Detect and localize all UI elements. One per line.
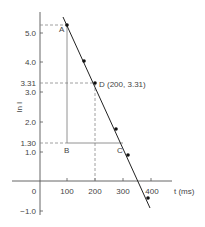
data-point: [126, 153, 130, 157]
data-point: [82, 59, 86, 63]
y-label-m1: −1.0: [20, 207, 36, 216]
y-label-4: 4.0: [25, 58, 37, 67]
x-label-100: 100: [60, 187, 74, 196]
data-point-A: [65, 23, 69, 27]
x-label-0: 0: [32, 187, 37, 196]
label-D: D (200, 3.31): [99, 80, 146, 89]
y-label-2: 2.0: [25, 118, 37, 127]
x-axis-title: t (ms): [174, 187, 195, 196]
y-label-3: 3.0: [25, 88, 37, 97]
label-A: A: [59, 25, 65, 34]
y-label-1: 1.0: [25, 148, 37, 157]
x-label-400: 400: [145, 187, 159, 196]
label-B: B: [64, 146, 69, 155]
guide-D: [40, 83, 95, 181]
label-C: C: [117, 146, 123, 155]
chart: 5.0 4.0 3.31 3.0 2.0 1.30 1.0 −1.0 0 100…: [0, 0, 205, 227]
y-axis-title: ln I: [15, 102, 24, 113]
x-label-200: 200: [88, 187, 102, 196]
data-point: [114, 127, 118, 131]
data-point-D: [93, 81, 97, 85]
data-point: [146, 196, 150, 200]
y-label-5: 5.0: [25, 29, 37, 38]
fit-line: [63, 17, 150, 208]
x-label-300: 300: [116, 187, 130, 196]
y-label-1-30: 1.30: [20, 139, 36, 148]
y-label-3-31: 3.31: [20, 79, 36, 88]
